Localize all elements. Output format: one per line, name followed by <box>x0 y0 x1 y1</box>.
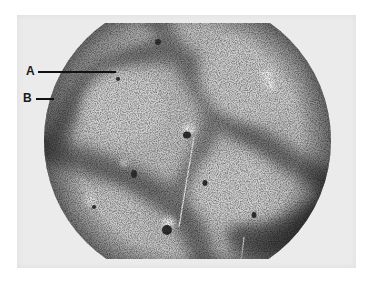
label-b: B <box>23 92 32 104</box>
leader-line-a <box>38 71 116 73</box>
micrograph-image <box>44 23 331 259</box>
microscope-field <box>44 23 331 259</box>
label-a: A <box>26 65 35 77</box>
leader-line-b <box>36 98 54 100</box>
microscope-field-clip <box>17 23 356 259</box>
